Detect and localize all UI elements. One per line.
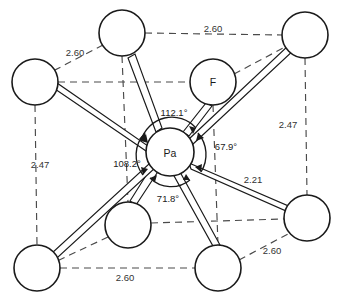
distance-label-bottom-edge: 2.60 — [116, 272, 135, 283]
distance-label-top-edge: 2.60 — [204, 23, 223, 34]
angle-label-bottom: 71.8° — [157, 193, 179, 204]
atom-right-middle — [284, 195, 330, 241]
angle-label-top: 112.1° — [161, 107, 188, 118]
distance-label-right-vertical: 2.47 — [279, 119, 298, 130]
bond-pa-right-middle — [189, 163, 293, 214]
atom-top-right — [282, 12, 328, 58]
atom-left-back — [12, 59, 58, 105]
distance-label-upper-left-diagonal: 2.60 — [66, 47, 85, 58]
distance-label-lower-right-diagonal: 2.60 — [263, 245, 282, 256]
fluorine-atom-label: F — [210, 76, 216, 88]
atom-top-back-left — [99, 10, 145, 56]
atom-bottom-left — [14, 245, 60, 291]
angle-label-left: 108.2° — [113, 158, 141, 169]
central-atom-label: Pa — [164, 147, 177, 159]
atom-inner-bottom — [105, 202, 151, 248]
bond-pa-left-back — [55, 83, 149, 153]
cell-edge-vert-left — [35, 105, 37, 245]
angle-label-right: 67.9° — [215, 141, 237, 152]
crystal-structure-diagram: Pa F 2.60 2.60 2.47 2.47 2.21 2.60 2.60 … — [0, 0, 340, 302]
distance-label-bond-pa-f: 2.21 — [244, 174, 263, 185]
arc-718-head-right — [183, 174, 190, 180]
cell-edge-vert-right — [305, 58, 307, 195]
atom-bottom-center — [195, 245, 241, 291]
structure-canvas: Pa F 2.60 2.60 2.47 2.47 2.21 2.60 2.60 … — [0, 0, 340, 302]
distance-label-left-vertical: 2.47 — [31, 159, 50, 170]
bond-pa-bottom-center — [173, 172, 220, 246]
